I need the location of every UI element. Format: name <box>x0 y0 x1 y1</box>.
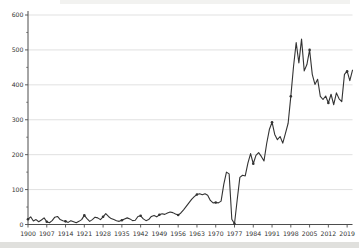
y-tick-label: 0 <box>20 221 24 228</box>
screenshot-root: 0100200300400500600190019071914192119281… <box>0 0 359 248</box>
y-tick-label: 500 <box>12 46 24 53</box>
x-tick-label: 1991 <box>264 230 280 237</box>
x-tick-label: 1900 <box>20 230 36 237</box>
x-tick-label: 1970 <box>208 230 224 237</box>
line-chart: 0100200300400500600190019071914192119281… <box>0 0 359 248</box>
data-point-marker <box>327 102 330 105</box>
x-tick-label: 2012 <box>320 230 336 237</box>
data-line <box>28 39 353 224</box>
x-tick-label: 1935 <box>114 230 130 237</box>
data-point-marker <box>252 162 255 165</box>
x-tick-label: 2019 <box>339 230 355 237</box>
x-tick-label: 2005 <box>302 230 318 237</box>
x-tick-label: 1928 <box>95 230 111 237</box>
x-tick-label: 1984 <box>245 230 261 237</box>
y-tick-label: 100 <box>12 186 24 193</box>
x-tick-label: 1949 <box>152 230 168 237</box>
data-point-marker <box>64 220 67 223</box>
data-point-marker <box>27 218 30 221</box>
x-tick-label: 1942 <box>133 230 149 237</box>
x-tick-label: 1956 <box>170 230 186 237</box>
data-point-marker <box>290 95 293 98</box>
chart-svg: 0100200300400500600190019071914192119281… <box>0 0 359 248</box>
data-point-marker <box>158 213 161 216</box>
x-tick-label: 1998 <box>283 230 299 237</box>
x-tick-label: 1921 <box>76 230 92 237</box>
data-point-marker <box>83 214 86 217</box>
data-point-marker <box>233 223 236 226</box>
x-tick-label: 1963 <box>189 230 205 237</box>
data-point-marker <box>121 219 124 222</box>
data-point-marker <box>346 70 349 73</box>
data-point-marker <box>196 193 199 196</box>
data-point-marker <box>271 121 274 124</box>
data-point-marker <box>102 216 105 219</box>
y-tick-label: 300 <box>12 116 24 123</box>
data-point-marker <box>177 214 180 217</box>
data-point-marker <box>214 201 217 204</box>
x-tick-label: 1977 <box>227 230 243 237</box>
x-tick-label: 1914 <box>58 230 74 237</box>
data-point-marker <box>308 49 311 52</box>
y-tick-label: 200 <box>12 151 24 158</box>
data-point-marker <box>45 220 48 223</box>
y-tick-label: 400 <box>12 81 24 88</box>
y-tick-label: 600 <box>12 11 24 18</box>
footer-band <box>0 242 359 248</box>
data-point-marker <box>139 214 142 217</box>
x-tick-label: 1907 <box>39 230 55 237</box>
